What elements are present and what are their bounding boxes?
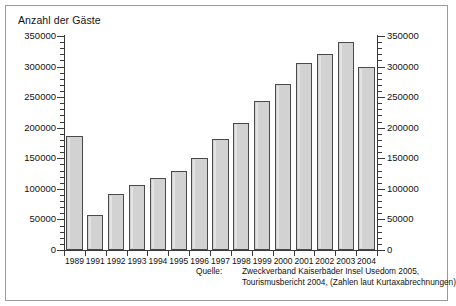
y-tick-minor-right <box>378 195 382 196</box>
bar-highlight <box>277 86 279 248</box>
bar-highlight <box>319 56 321 248</box>
y-tick-minor-left <box>60 183 64 184</box>
x-tick <box>377 251 378 256</box>
bar-highlight <box>89 217 91 248</box>
bar <box>108 194 124 250</box>
y-tick-minor-left <box>60 48 64 49</box>
y-tick-minor-left <box>60 164 64 165</box>
y-tick-major-right <box>378 67 385 68</box>
y-tick-major-left <box>57 67 64 68</box>
bar <box>212 139 228 250</box>
y-axis-right-labels: 0500001000001500002000002500003000003500… <box>387 0 447 306</box>
y-tick-minor-right <box>378 201 382 202</box>
bar <box>338 42 354 250</box>
x-axis-tick-label: 1994 <box>147 256 168 266</box>
y-tick-minor-right <box>378 140 382 141</box>
y-tick-minor-left <box>60 134 64 135</box>
y-tick-minor-right <box>378 54 382 55</box>
y-axis-right-tick-label: 100000 <box>387 184 419 194</box>
bar-highlight <box>256 103 258 248</box>
y-tick-major-left <box>57 128 64 129</box>
y-tick-minor-left <box>60 73 64 74</box>
y-tick-major-left <box>57 97 64 98</box>
y-tick-minor-right <box>378 244 382 245</box>
bar-highlight <box>152 180 154 248</box>
bar <box>233 123 249 250</box>
y-axis-left-tick-label: 50000 <box>30 214 56 224</box>
x-axis-tick-label: 2003 <box>335 256 356 266</box>
source-line: Tourismusbericht 2004, (Zahlen laut Kurt… <box>242 277 456 288</box>
y-tick-minor-right <box>378 115 382 116</box>
y-tick-minor-left <box>60 60 64 61</box>
bar <box>171 171 187 250</box>
y-axis-left-tick-label: 150000 <box>24 153 56 163</box>
y-tick-major-left <box>57 219 64 220</box>
y-axis-left-tick-label: 100000 <box>24 184 56 194</box>
bar <box>296 63 312 250</box>
bar <box>275 84 291 250</box>
y-tick-major-right <box>378 128 385 129</box>
y-tick-minor-left <box>60 115 64 116</box>
y-tick-minor-left <box>60 85 64 86</box>
y-tick-minor-left <box>60 201 64 202</box>
x-axis-tick-label: 1999 <box>252 256 273 266</box>
bar <box>66 136 82 250</box>
bar-highlight <box>235 125 237 248</box>
y-axis-right-tick-label: 300000 <box>387 62 419 72</box>
bar <box>87 215 103 250</box>
bar <box>317 54 333 250</box>
y-tick-minor-left <box>60 152 64 153</box>
x-axis-tick-label: 1991 <box>85 256 106 266</box>
bar <box>254 101 270 250</box>
y-tick-minor-left <box>60 177 64 178</box>
y-tick-minor-right <box>378 134 382 135</box>
y-tick-major-left <box>57 36 64 37</box>
x-axis-tick-label: 1997 <box>210 256 231 266</box>
y-tick-major-right <box>378 219 385 220</box>
y-tick-major-left <box>57 250 64 251</box>
bar-highlight <box>298 65 300 248</box>
y-axis-right-tick-label: 350000 <box>387 31 419 41</box>
y-axis-right-tick-label: 0 <box>387 245 392 255</box>
y-tick-minor-left <box>60 195 64 196</box>
y-tick-major-right <box>378 189 385 190</box>
y-tick-minor-left <box>60 140 64 141</box>
bar <box>358 67 374 250</box>
y-tick-minor-right <box>378 146 382 147</box>
y-tick-major-right <box>378 97 385 98</box>
bar-highlight <box>131 187 133 248</box>
y-axis-left-labels: 0500001000001500002000002500003000003500… <box>0 0 56 306</box>
y-tick-minor-left <box>60 213 64 214</box>
y-tick-minor-right <box>378 73 382 74</box>
y-axis-right-tick-label: 200000 <box>387 123 419 133</box>
x-axis-tick-label: 1992 <box>106 256 127 266</box>
y-tick-major-right <box>378 158 385 159</box>
bar-highlight <box>214 141 216 248</box>
y-tick-minor-left <box>60 244 64 245</box>
source-text: Zweckverband Kaiserbäder Insel Usedom 20… <box>242 266 456 288</box>
y-tick-minor-right <box>378 109 382 110</box>
y-axis-left-line <box>64 35 65 251</box>
y-axis-left-tick-label: 300000 <box>24 62 56 72</box>
y-tick-minor-right <box>378 177 382 178</box>
x-axis-tick-label: 1995 <box>168 256 189 266</box>
y-tick-minor-left <box>60 103 64 104</box>
y-tick-minor-left <box>60 232 64 233</box>
y-tick-minor-right <box>378 207 382 208</box>
y-tick-minor-left <box>60 79 64 80</box>
y-tick-minor-right <box>378 152 382 153</box>
x-axis-tick-label: 2002 <box>314 256 335 266</box>
bar-highlight <box>68 138 70 248</box>
y-tick-minor-right <box>378 122 382 123</box>
y-tick-minor-right <box>378 171 382 172</box>
y-tick-minor-right <box>378 103 382 104</box>
y-tick-minor-right <box>378 238 382 239</box>
bar <box>191 158 207 250</box>
y-tick-minor-right <box>378 48 382 49</box>
y-tick-minor-left <box>60 226 64 227</box>
y-tick-minor-right <box>378 85 382 86</box>
bar <box>150 178 166 250</box>
y-tick-minor-left <box>60 122 64 123</box>
y-tick-major-right <box>378 36 385 37</box>
